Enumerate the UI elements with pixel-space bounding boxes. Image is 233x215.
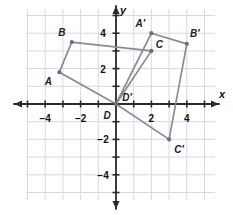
x-axis-arrow-left: [14, 100, 22, 107]
point-label-A'B'C'D'-Dprime: D′: [122, 92, 132, 103]
point-label-A'B'C'D'-Cprime: C′: [174, 144, 184, 155]
y-tick-label--4: −4: [97, 169, 108, 180]
x-tick-label-2: 2: [149, 113, 155, 124]
y-axis-arrow-down: [112, 201, 119, 209]
vertex-point-C′: [167, 137, 171, 141]
x-axis-label: x: [219, 88, 225, 100]
vertex-point-B: [70, 40, 74, 44]
point-label-ABCD-B: B: [58, 27, 65, 38]
point-label-A'B'C'D'-Aprime: A′: [136, 18, 146, 29]
point-label-ABCD-A: A: [45, 76, 52, 87]
y-tick-label-2: 2: [100, 63, 106, 74]
x-tick-label--4: −4: [39, 113, 50, 124]
point-label-ABCD-C: C: [156, 38, 163, 49]
coordinate-plane-figure: −4−22442−2−4xyABCDA′B′C′D′: [0, 0, 233, 215]
y-tick-label-4: 4: [100, 28, 106, 39]
point-label-ABCD-D: D: [103, 110, 110, 121]
x-axis-arrow-right: [211, 100, 219, 107]
vertex-point-C: [149, 49, 153, 53]
x-tick-label--2: −2: [75, 113, 86, 124]
vertex-point-A′: [149, 31, 153, 35]
x-tick-label-4: 4: [184, 113, 190, 124]
vertex-point-A: [57, 70, 61, 74]
vertex-point-B′: [185, 42, 189, 46]
point-label-A'B'C'D'-Bprime: B′: [190, 27, 200, 38]
y-axis-arrow-up: [112, 6, 119, 14]
vertex-point-D′: [114, 102, 118, 106]
y-axis-label: y: [120, 4, 126, 16]
y-tick-label--2: −2: [97, 134, 108, 145]
